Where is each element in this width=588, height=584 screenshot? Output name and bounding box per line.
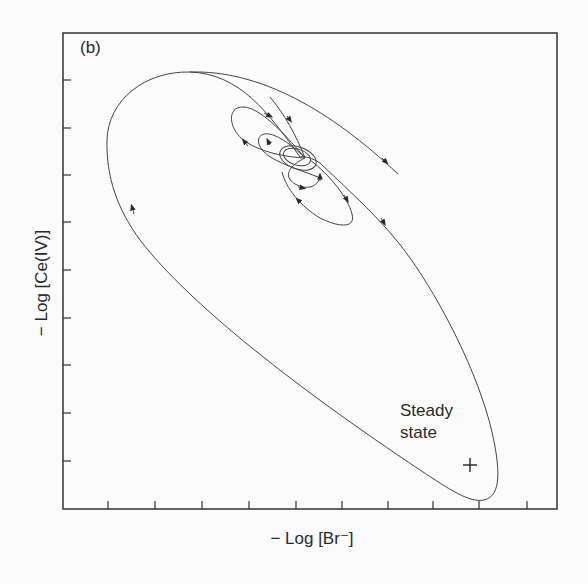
panel-label: (b) — [80, 38, 101, 58]
x-axis-ticks — [108, 501, 527, 509]
y-axis-ticks — [63, 80, 71, 461]
incoming-trajectory — [190, 72, 398, 174]
x-axis-label: − Log [Br⁻] — [0, 528, 588, 549]
plot-frame — [63, 33, 557, 509]
annotation-line-2: state — [400, 422, 453, 444]
steady-state-annotation: Steady state — [400, 400, 453, 444]
phase-plane-plot — [0, 0, 588, 584]
annotation-line-1: Steady — [400, 400, 453, 422]
y-axis-label: − Log [Ce(IV)] — [32, 230, 52, 336]
spiral-trajectories — [231, 97, 352, 225]
steady-state-marker — [463, 458, 477, 472]
